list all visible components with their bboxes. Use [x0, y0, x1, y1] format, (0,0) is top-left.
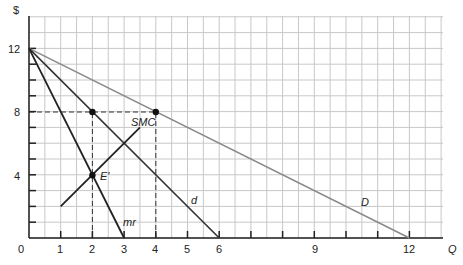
x-tick-1: 1 — [57, 243, 63, 255]
x-axis-label: Q — [448, 243, 457, 255]
y-tick-8: 8 — [14, 106, 20, 118]
y-axis-ticks — [29, 48, 36, 222]
x-tick-9: 9 — [312, 243, 318, 255]
point-d-at-2-8 — [89, 109, 95, 115]
label-d: d — [191, 194, 198, 206]
x-tick-5: 5 — [184, 243, 190, 255]
y-tick-4: 4 — [14, 170, 20, 182]
x-tick-4: 4 — [152, 243, 158, 255]
x-tick-6: 6 — [216, 243, 222, 255]
x-tick-0: 0 — [18, 243, 24, 255]
label-mr: mr — [123, 216, 137, 228]
y-axis-label: $ — [13, 4, 19, 16]
x-tick-12: 12 — [403, 243, 415, 255]
y-tick-12: 12 — [8, 43, 20, 55]
x-tick-3: 3 — [121, 243, 127, 255]
point-E-equilibrium — [89, 172, 95, 178]
label-SMC: SMC — [131, 116, 156, 128]
label-E-prime: E' — [100, 170, 110, 182]
grid — [29, 16, 443, 238]
point-D-at-4-8 — [153, 109, 159, 115]
chart: $ Q 12 8 4 0 1 2 3 4 5 6 9 12 D d mr SMC… — [0, 0, 463, 265]
short-run-marginal-cost-SMC — [61, 127, 140, 206]
label-D: D — [361, 196, 369, 208]
x-tick-2: 2 — [89, 243, 95, 255]
